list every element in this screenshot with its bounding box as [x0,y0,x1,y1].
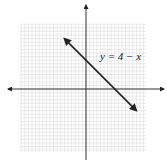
axes [8,5,164,160]
coordinate-plane [0,0,167,165]
equation-label: y = 4 − x [100,51,141,62]
grid [20,24,146,152]
